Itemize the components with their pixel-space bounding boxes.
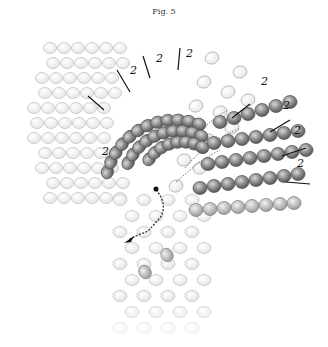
- faint-bead: [109, 88, 122, 99]
- dark-bead: [263, 172, 277, 185]
- light-bead: [259, 199, 273, 212]
- light-bead: [217, 202, 231, 215]
- stem-bead: [113, 259, 127, 270]
- faint-bead: [44, 193, 57, 204]
- dark-bead: [249, 131, 263, 144]
- beadwork-diagram: 22222222: [0, 0, 328, 347]
- faint-bead: [103, 58, 116, 69]
- stem-bead: [137, 227, 151, 238]
- dark-bead: [277, 170, 291, 183]
- faint-bead: [64, 163, 77, 174]
- faint-bead: [50, 73, 63, 84]
- stem-bead: [173, 275, 187, 286]
- light-bead: [195, 74, 212, 90]
- faint-bead: [47, 58, 60, 69]
- light-bead: [189, 204, 203, 217]
- thread-start-dot: [154, 187, 159, 192]
- stem-bead: [197, 243, 211, 254]
- dark-bead: [235, 133, 249, 146]
- faint-bead: [95, 88, 108, 99]
- faint-bead: [81, 88, 94, 99]
- step-label: 2: [282, 99, 290, 112]
- dark-bead: [257, 150, 271, 163]
- stem-bead: [125, 275, 139, 286]
- step-label: 2: [260, 75, 268, 88]
- faint-bead: [86, 193, 99, 204]
- arrow-head-icon: [124, 236, 134, 243]
- light-bead: [287, 197, 301, 210]
- dark-bead: [213, 116, 227, 129]
- faint-bead: [92, 73, 105, 84]
- light-bead: [273, 198, 287, 211]
- step-marker-line: [286, 182, 310, 184]
- faint-bead: [106, 73, 119, 84]
- light-bead: [203, 203, 217, 216]
- step-label: 2: [101, 145, 109, 158]
- dark-bead: [255, 104, 269, 117]
- faint-bead: [117, 178, 130, 189]
- dark-bead: [263, 129, 277, 142]
- faint-bead: [58, 193, 71, 204]
- faint-bead: [56, 133, 69, 144]
- faint-bead: [36, 163, 49, 174]
- faint-bead: [78, 73, 91, 84]
- faint-bead: [53, 88, 66, 99]
- light-bead: [175, 152, 192, 168]
- step-label: 2: [293, 124, 301, 137]
- light-bead: [203, 50, 220, 66]
- light-bead: [167, 178, 184, 194]
- faint-bead: [36, 73, 49, 84]
- stem-bead: [185, 291, 199, 302]
- dark-bead: [277, 127, 291, 140]
- faint-bead: [72, 193, 85, 204]
- stem-bead: [161, 291, 175, 302]
- faint-bead: [28, 103, 41, 114]
- faint-bead: [56, 103, 69, 114]
- faint-bead: [98, 133, 111, 144]
- faint-bead: [67, 88, 80, 99]
- stem-bead: [125, 211, 139, 222]
- faint-bead: [75, 178, 88, 189]
- dark-bead: [215, 156, 229, 169]
- faint-bead: [73, 118, 86, 129]
- dark-bead: [243, 152, 257, 165]
- faint-bead: [103, 178, 116, 189]
- stem-bead: [173, 243, 187, 254]
- step-label: 2: [296, 157, 304, 170]
- stem-bead: [173, 211, 187, 222]
- dark-bead: [235, 176, 249, 189]
- dark-bead: [207, 137, 221, 150]
- faint-bead: [81, 148, 94, 159]
- faint-bead: [50, 163, 63, 174]
- dark-bead: [271, 148, 285, 161]
- step-marker-line: [143, 56, 150, 78]
- faint-bead: [42, 133, 55, 144]
- faint-bead: [89, 178, 102, 189]
- stem-bead: [113, 195, 127, 206]
- step-label: 2: [155, 52, 163, 65]
- faint-bead: [100, 43, 113, 54]
- stem-bead: [161, 227, 175, 238]
- faint-bead: [61, 58, 74, 69]
- stem-bead: [125, 243, 139, 254]
- step-label: 2: [185, 47, 193, 60]
- faint-bead: [64, 73, 77, 84]
- faint-bead: [45, 118, 58, 129]
- light-bead: [187, 98, 204, 114]
- faint-bead: [44, 43, 57, 54]
- stem-bead: [137, 291, 151, 302]
- faint-bead: [89, 58, 102, 69]
- faint-bead: [101, 118, 114, 129]
- dark-bead: [229, 154, 243, 167]
- active-beads: [100, 96, 313, 195]
- stem-bead: [113, 291, 127, 302]
- stem-bead: [197, 275, 211, 286]
- faint-bead: [53, 148, 66, 159]
- stem-bead: [149, 275, 163, 286]
- light-bead: [231, 64, 248, 80]
- faint-bead: [47, 178, 60, 189]
- step-marker-line: [178, 48, 180, 70]
- stem-bead: [185, 259, 199, 270]
- faint-bead: [28, 133, 41, 144]
- faint-bead: [78, 163, 91, 174]
